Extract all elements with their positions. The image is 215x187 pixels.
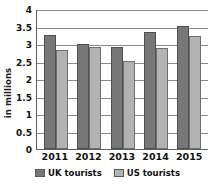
y-axis-tick: 1 (26, 111, 32, 120)
x-axis-tick-2013: 2013 (105, 151, 139, 162)
bar-2013-series-2[interactable] (123, 61, 135, 149)
bar-group-2013 (106, 10, 139, 149)
bar-2011-series-1[interactable] (44, 35, 56, 149)
bar-group-2011 (39, 10, 72, 149)
legend-label: US tourists (127, 168, 180, 178)
bar-2014-series-2[interactable] (156, 48, 168, 149)
y-axis-tick: 2 (26, 76, 32, 85)
legend-label: UK tourists (48, 168, 102, 178)
chart-legend: UK touristsUS tourists (0, 168, 215, 178)
bar-2012-series-1[interactable] (77, 44, 89, 149)
bar-2012-series-2[interactable] (89, 47, 101, 149)
y-axis-title-label: in millions (3, 67, 13, 118)
y-axis-tick: 4 (26, 6, 32, 15)
bar-2014-series-1[interactable] (144, 32, 156, 149)
x-axis-tick-2012: 2012 (72, 151, 106, 162)
legend-swatch-icon (114, 169, 124, 177)
bar-group-2014 (139, 10, 172, 149)
legend-item-us-tourists[interactable]: US tourists (114, 168, 180, 178)
bar-group-2015 (173, 10, 206, 149)
x-axis-tick-2015: 2015 (172, 151, 206, 162)
y-axis-tick-labels: 43.532.521.510.50 (14, 10, 34, 150)
y-axis-tick: 0 (26, 146, 32, 155)
x-axis-tick-2011: 2011 (38, 151, 72, 162)
bar-2015-series-1[interactable] (177, 26, 189, 149)
legend-item-uk-tourists[interactable]: UK tourists (35, 168, 102, 178)
x-axis-tick-2014: 2014 (139, 151, 173, 162)
bars-layer (37, 10, 208, 149)
y-axis-tick: 0.5 (16, 128, 32, 137)
y-axis-tick: 2.5 (16, 58, 32, 67)
x-axis-tick-labels: 20112012201320142015 (36, 151, 208, 162)
y-axis-tick: 1.5 (16, 93, 32, 102)
bar-group-2012 (72, 10, 105, 149)
bar-2015-series-2[interactable] (189, 36, 201, 149)
y-axis-title: in millions (1, 40, 15, 145)
bar-2011-series-2[interactable] (56, 50, 68, 149)
bar-chart: in millions 43.532.521.510.50 2011201220… (0, 0, 215, 187)
legend-swatch-icon (35, 169, 45, 177)
y-axis-tick: 3.5 (16, 23, 32, 32)
y-axis-tick: 3 (26, 41, 32, 50)
plot-area (36, 10, 208, 150)
bar-2013-series-1[interactable] (111, 47, 123, 149)
